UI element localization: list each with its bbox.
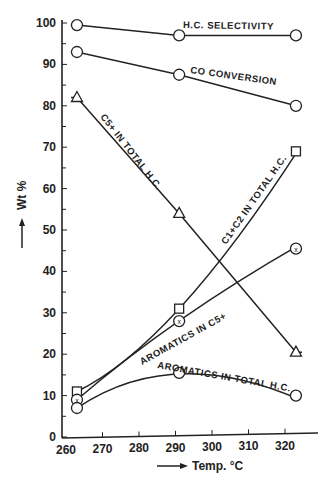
x-tick: 290 bbox=[165, 431, 185, 455]
svg-text:320: 320 bbox=[275, 439, 295, 453]
x-tick: 310 bbox=[238, 429, 258, 453]
y-tick: 40 bbox=[43, 251, 67, 279]
svg-text:260: 260 bbox=[56, 443, 76, 457]
y-tick: 50 bbox=[43, 209, 67, 237]
svg-text:80: 80 bbox=[43, 99, 57, 113]
y-tick: 80 bbox=[43, 85, 67, 113]
y-tick: 70 bbox=[43, 127, 67, 155]
svg-text:30: 30 bbox=[43, 306, 57, 320]
data-point-circle-x: x bbox=[290, 243, 301, 254]
y-tick: 30 bbox=[43, 292, 67, 320]
data-point-circle bbox=[71, 46, 82, 57]
y-tick: 10 bbox=[43, 375, 67, 403]
x-tick: 320 bbox=[275, 429, 295, 453]
svg-text:60: 60 bbox=[43, 182, 57, 196]
label-hc-selectivity: H.C. SELECTIVITY bbox=[183, 19, 274, 32]
svg-text:310: 310 bbox=[238, 439, 258, 453]
svg-text:270: 270 bbox=[92, 442, 112, 456]
data-point-triangle bbox=[71, 92, 82, 102]
x-tick: 300 bbox=[202, 430, 222, 454]
data-point-square bbox=[291, 147, 300, 156]
x-tick: 260 bbox=[56, 443, 76, 457]
data-point-circle bbox=[71, 20, 82, 31]
x-axis-label: Temp. °C bbox=[192, 459, 244, 473]
y-tick: 60 bbox=[43, 168, 67, 196]
data-point-circle bbox=[290, 100, 301, 111]
series-line bbox=[71, 98, 302, 353]
x-tick: 270 bbox=[92, 432, 112, 456]
y-tick: 20 bbox=[43, 334, 67, 362]
data-point-circle-x: x bbox=[174, 316, 185, 327]
x-arrow-head bbox=[180, 463, 188, 469]
svg-text:280: 280 bbox=[129, 441, 149, 455]
data-point-circle bbox=[290, 390, 301, 401]
data-point-circle bbox=[174, 30, 185, 41]
data-point-circle bbox=[290, 30, 301, 41]
y-tick: 0 bbox=[49, 416, 67, 444]
data-point-square bbox=[175, 304, 184, 313]
svg-text:x: x bbox=[177, 318, 181, 325]
svg-text:290: 290 bbox=[165, 441, 185, 455]
y-axis-label: Wt % bbox=[15, 180, 29, 210]
svg-text:100: 100 bbox=[36, 16, 56, 30]
label-c5-total: C5+ IN TOTAL H.C. bbox=[98, 111, 164, 191]
chart: 0102030405060708090100260270280290300310… bbox=[0, 0, 327, 482]
svg-text:x: x bbox=[294, 246, 298, 253]
svg-text:50: 50 bbox=[43, 223, 57, 237]
svg-text:90: 90 bbox=[43, 57, 57, 71]
svg-text:20: 20 bbox=[43, 347, 57, 361]
y-tick: 90 bbox=[43, 44, 67, 72]
y-arrow-head bbox=[19, 218, 25, 226]
svg-text:40: 40 bbox=[43, 264, 57, 278]
series-labels: H.C. SELECTIVITY CO CONVERSION C5+ IN TO… bbox=[98, 19, 291, 393]
svg-text:10: 10 bbox=[43, 389, 57, 403]
svg-text:300: 300 bbox=[202, 440, 222, 454]
svg-text:0: 0 bbox=[49, 430, 56, 444]
label-c1c2-total: C1+C2 IN TOTAL H.C. bbox=[219, 153, 289, 246]
label-co-conversion: CO CONVERSION bbox=[190, 64, 278, 87]
data-point-circle bbox=[174, 69, 185, 80]
svg-text:70: 70 bbox=[43, 140, 57, 154]
series-line bbox=[77, 245, 300, 400]
data-point-circle bbox=[71, 403, 82, 414]
x-tick: 280 bbox=[129, 431, 149, 455]
